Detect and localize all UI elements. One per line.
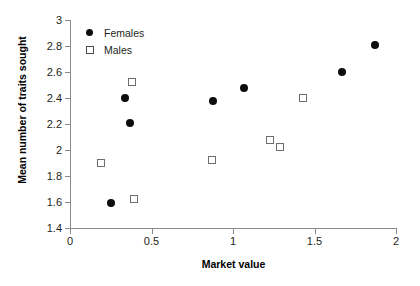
data-point-male <box>208 156 216 164</box>
y-axis-tick-label: 2.8 <box>28 40 62 52</box>
data-point-female <box>371 41 379 49</box>
y-axis-tick-label: 2.2 <box>28 118 62 130</box>
y-axis-tick-label: 1.8 <box>28 170 62 182</box>
data-point-female <box>240 84 248 92</box>
x-axis-tick-label: 1 <box>230 235 236 247</box>
open-square-icon <box>86 46 100 54</box>
x-axis-tick <box>70 229 71 234</box>
x-axis-tick-label: 1.5 <box>307 235 322 247</box>
x-axis-tick-label: 2 <box>393 235 399 247</box>
x-axis-title: Market value <box>70 258 397 270</box>
x-axis-tick-label: 0 <box>67 235 73 247</box>
legend-item-males: Males <box>86 41 144 58</box>
data-point-male <box>130 195 138 203</box>
scatter-chart-figure: 1.41.61.822.22.42.62.83 00.511.52 Mean n… <box>0 0 420 286</box>
data-point-male <box>276 143 284 151</box>
y-axis-title: Mean number of traits sought <box>16 15 28 205</box>
data-point-female <box>126 119 134 127</box>
x-axis-tick <box>233 229 234 234</box>
data-point-female <box>121 94 129 102</box>
y-axis-tick-label: 1.4 <box>28 222 62 234</box>
x-axis-tick <box>396 229 397 234</box>
x-axis-tick <box>315 229 316 234</box>
data-point-male <box>97 159 105 167</box>
data-point-male <box>128 78 136 86</box>
filled-circle-icon <box>86 29 100 36</box>
x-axis-tick-label: 0.5 <box>144 235 159 247</box>
data-point-male <box>266 136 274 144</box>
x-axis-tick <box>152 229 153 234</box>
y-axis-tick-label: 1.6 <box>28 196 62 208</box>
chart-legend: Females Males <box>86 24 144 58</box>
data-point-female <box>209 97 217 105</box>
legend-label-females: Females <box>104 27 144 39</box>
y-axis-tick-label: 3 <box>28 14 62 26</box>
legend-item-females: Females <box>86 24 144 41</box>
data-point-female <box>338 68 346 76</box>
y-axis-tick-label: 2.4 <box>28 92 62 104</box>
data-point-female <box>107 199 115 207</box>
data-point-male <box>299 94 307 102</box>
legend-label-males: Males <box>104 44 132 56</box>
y-axis-tick-label: 2.6 <box>28 66 62 78</box>
y-axis-tick-label: 2 <box>28 144 62 156</box>
